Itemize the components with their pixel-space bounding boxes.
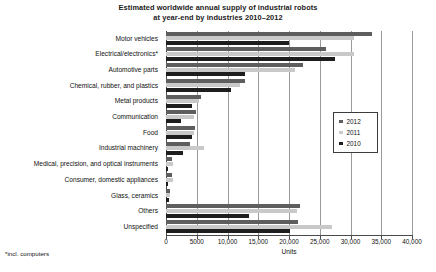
category-label: Food xyxy=(143,129,158,137)
legend: 2012 2011 2010 xyxy=(333,112,378,153)
bar-group xyxy=(166,157,412,173)
bar-2010 xyxy=(166,88,231,92)
x-axis-tick-label: 5000 xyxy=(190,238,204,246)
legend-label-2012: 2012 xyxy=(347,118,361,125)
category-label: Electrical/electronics* xyxy=(95,50,158,58)
category-label: Chemical, rubber, and plastics xyxy=(70,82,158,90)
bar-group xyxy=(166,220,412,236)
category-label: Unspecified xyxy=(124,223,158,231)
bar-2012 xyxy=(166,47,326,51)
title-line-1: Estimated worldwide annual supply of ind… xyxy=(119,3,318,12)
legend-swatch-icon-2011 xyxy=(339,131,343,135)
x-axis-tick-label: 25,000 xyxy=(310,238,330,246)
bar-2010 xyxy=(166,182,168,186)
category-label: Others xyxy=(138,207,158,215)
bar-2010 xyxy=(166,72,245,76)
bar-2012 xyxy=(166,204,300,208)
page-title: Estimated worldwide annual supply of ind… xyxy=(0,3,436,23)
bar-2011 xyxy=(166,68,295,72)
category-label: Communication xyxy=(112,113,158,121)
bar-2012 xyxy=(166,79,245,83)
category-label: Industrial machinery xyxy=(99,144,158,152)
bar-group xyxy=(166,204,412,220)
bar-2010 xyxy=(166,57,335,61)
category-label: Metal products xyxy=(115,97,158,105)
title-line-2: at year-end by industries 2010–2012 xyxy=(0,13,436,23)
bar-2011 xyxy=(166,131,194,135)
bar-2011 xyxy=(166,52,354,56)
bar-2012 xyxy=(166,189,170,193)
x-axis-title: Units xyxy=(166,248,412,255)
x-axis-tick-label: 35,000 xyxy=(371,238,391,246)
bar-2011 xyxy=(166,99,199,103)
bar-2010 xyxy=(166,41,289,45)
category-label: Medical, precision, and optical instrume… xyxy=(34,160,158,168)
bar-2010 xyxy=(166,135,192,139)
x-axis-tick-label: 0 xyxy=(164,238,168,246)
bar-2012 xyxy=(166,220,298,224)
x-axis-tick-label: 30,000 xyxy=(341,238,361,246)
bar-2011 xyxy=(166,83,240,87)
legend-label-2010: 2010 xyxy=(347,140,361,147)
bar-2011 xyxy=(166,178,173,182)
bar-2012 xyxy=(166,157,172,161)
x-axis-tick-label: 15,000 xyxy=(248,238,268,246)
category-axis-labels: Motor vehiclesElectrical/electronics*Aut… xyxy=(0,31,162,235)
bar-group xyxy=(166,47,412,63)
x-axis-tick-label: 40,000 xyxy=(402,238,422,246)
bar-2010 xyxy=(166,151,183,155)
bar-2012 xyxy=(166,173,172,177)
bar-2012 xyxy=(166,110,196,114)
category-label: Consumer, domestic appliances xyxy=(65,176,158,184)
bar-2011 xyxy=(166,36,354,40)
bar-2012 xyxy=(166,142,190,146)
legend-item-2011: 2011 xyxy=(339,127,373,138)
bar-2010 xyxy=(166,214,249,218)
bar-group xyxy=(166,32,412,48)
bar-2012 xyxy=(166,63,303,67)
bar-2010 xyxy=(166,229,290,233)
legend-item-2010: 2010 xyxy=(339,138,373,149)
bar-2011 xyxy=(166,146,204,150)
bar-group xyxy=(166,173,412,189)
bar-2010 xyxy=(166,167,168,171)
x-axis-tick-label: 20,000 xyxy=(279,238,299,246)
bar-group xyxy=(166,189,412,205)
bar-2012 xyxy=(166,126,195,130)
bar-group xyxy=(166,95,412,111)
category-label: Automotive parts xyxy=(109,66,158,74)
bar-2011 xyxy=(166,115,194,119)
gridline xyxy=(412,31,413,235)
legend-swatch-icon-2010 xyxy=(339,142,343,146)
bar-2010 xyxy=(166,104,192,108)
legend-label-2011: 2011 xyxy=(347,129,361,136)
bar-2011 xyxy=(166,225,332,229)
bar-group xyxy=(166,63,412,79)
bar-2011 xyxy=(166,193,170,197)
bar-2010 xyxy=(166,119,181,123)
bar-2012 xyxy=(166,95,201,99)
chart-container: Estimated worldwide annual supply of ind… xyxy=(0,0,436,272)
legend-swatch-icon-2012 xyxy=(339,120,343,124)
bar-2012 xyxy=(166,32,372,36)
x-axis-tick-label: 10,000 xyxy=(218,238,238,246)
category-label: Glass, ceramics xyxy=(111,192,158,200)
bar-2011 xyxy=(166,162,173,166)
legend-item-2012: 2012 xyxy=(339,116,373,127)
footnote: *incl. computers xyxy=(5,250,49,257)
bar-2011 xyxy=(166,209,297,213)
category-label: Motor vehicles xyxy=(115,35,158,43)
bar-2010 xyxy=(166,198,169,202)
bar-group xyxy=(166,79,412,95)
